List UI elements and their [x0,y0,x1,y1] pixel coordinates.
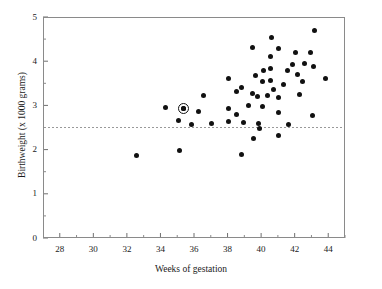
data-point [260,104,265,109]
data-point [285,68,290,73]
x-axis-title: Weeks of gestation [0,264,382,274]
data-point [276,95,281,100]
data-point [323,76,328,81]
x-tick-label: 34 [149,245,171,254]
data-point [268,66,273,71]
data-point [290,62,295,67]
data-point [226,106,231,111]
data-point [295,72,300,77]
data-point [163,105,168,110]
data-point [281,82,286,87]
data-point [246,103,251,108]
data-point [239,85,244,90]
data-point [239,152,244,157]
data-point [293,50,298,55]
data-point [234,89,239,94]
data-point [286,122,291,127]
data-point [251,136,256,141]
data-point [255,94,260,99]
x-tick-label: 32 [116,245,138,254]
data-point [256,121,261,126]
data-point [310,113,315,118]
data-point [261,68,266,73]
data-point [311,64,316,69]
data-point [250,91,255,96]
x-tick-label: 40 [250,245,272,254]
data-point [276,110,281,115]
x-tick-label: 36 [183,245,205,254]
data-point [196,109,201,114]
data-point [300,79,305,84]
data-point [176,118,181,123]
data-point [268,54,273,59]
x-tick-label: 30 [82,245,104,254]
data-point [269,35,274,40]
y-axis-title: Birthweight (x 1000 grams) [17,10,27,240]
data-point [189,122,194,127]
data-point [226,76,231,81]
highlighted-point [181,106,186,111]
data-point [265,93,270,98]
data-point [302,61,307,66]
data-point [268,78,273,83]
x-tick-label: 28 [49,245,71,254]
data-point [276,133,281,138]
data-point [226,119,231,124]
data-point [134,153,139,158]
data-point [234,112,239,117]
x-tick-label: 44 [317,245,339,254]
data-point [297,92,302,97]
data-point [271,87,276,92]
data-point [253,73,258,78]
data-point [312,28,317,33]
data-point [241,120,246,125]
data-point [209,121,214,126]
data-point [260,79,265,84]
data-point [308,50,313,55]
data-point [250,45,255,50]
x-tick-label: 42 [284,245,306,254]
x-tick-label: 38 [217,245,239,254]
data-point [177,148,182,153]
data-point [276,46,281,51]
plot-area [43,17,345,238]
scatter-plot-figure: 012345 283032343638404244 Weeks of gesta… [0,0,382,289]
data-point [201,93,206,98]
data-point [257,126,262,131]
